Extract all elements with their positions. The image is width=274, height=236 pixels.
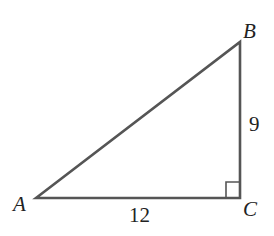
vertex-label-c: C xyxy=(243,197,258,221)
side-label-ac: 12 xyxy=(129,203,150,227)
vertex-label-a: A xyxy=(11,192,26,216)
side-label-bc: 9 xyxy=(249,112,260,136)
triangle-diagram: B 9 A 12 C xyxy=(0,0,274,236)
triangle-abc xyxy=(36,42,240,198)
vertex-label-b: B xyxy=(243,19,256,43)
